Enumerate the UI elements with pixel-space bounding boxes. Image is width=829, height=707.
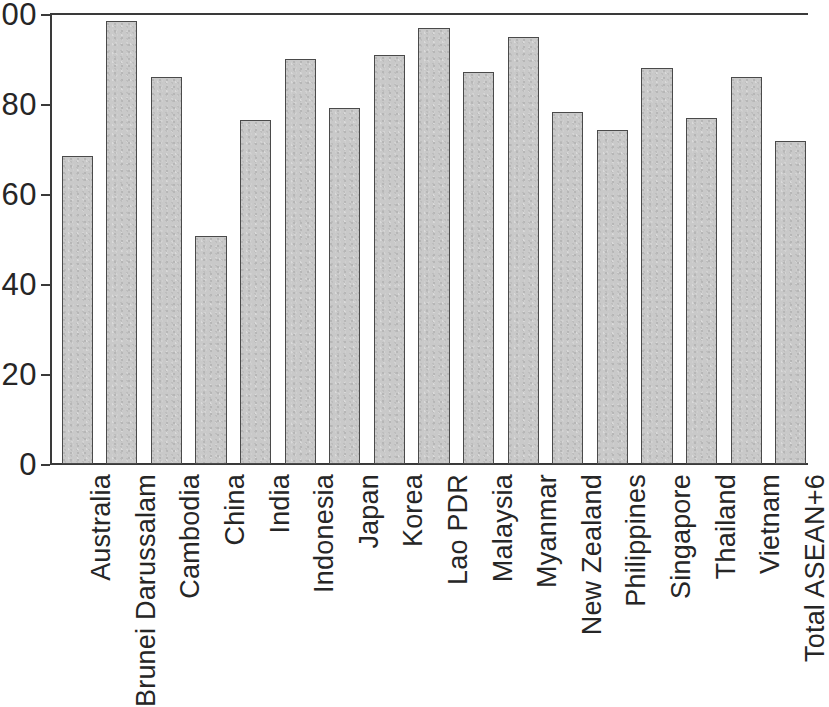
x-category-label: Malaysia [490,474,517,582]
bar [240,120,271,464]
y-tick-mark [41,194,50,196]
x-category-label: Japan [356,474,383,549]
y-tick-mark [41,464,50,466]
x-category-label: Brunei Darussalam [133,474,160,707]
y-tick-label: 0 [19,449,37,480]
x-category-label: Vietnam [757,474,784,574]
bar [508,37,539,464]
bar [597,130,628,464]
bar [329,108,360,464]
x-category-label: Philippines [623,474,650,607]
y-tick-mark [41,374,50,376]
x-category-label: Korea [400,474,427,547]
x-category-label: China [222,474,249,546]
bar [731,77,762,464]
y-tick-label: 100 [0,0,37,30]
x-category-label: Cambodia [177,474,204,599]
x-category-label: Australia [88,474,115,581]
x-category-label: Thailand [713,474,740,579]
x-category-label: Indonesia [311,474,338,593]
y-tick-label: 60 [2,179,37,210]
bar [151,77,182,464]
x-category-label: Singapore [668,474,695,599]
x-category-label: India [267,474,294,534]
bar [106,21,137,464]
bar [285,59,316,464]
bar [195,236,226,464]
y-tick-label: 80 [2,89,37,120]
bar [62,156,93,464]
bar [641,68,672,464]
x-category-label: Lao PDR [445,474,472,585]
x-category-label: New Zealand [579,474,606,635]
y-tick-mark [41,104,50,106]
y-tick-mark [41,14,50,16]
bar [374,55,405,465]
bar [775,141,806,464]
bar [463,72,494,464]
y-tick-mark [41,284,50,286]
y-tick-label: 40 [2,269,37,300]
plot-area: 020406080100 [50,14,808,464]
bar [552,112,583,464]
bar [686,118,717,465]
y-tick-label: 20 [2,359,37,390]
x-category-label: Total ASEAN+6 [802,474,829,662]
bar [418,28,449,465]
x-category-label: Myanmar [534,474,561,588]
